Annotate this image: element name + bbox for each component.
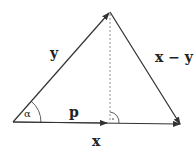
label-x-minus-y: x − y: [155, 49, 194, 65]
label-y: y: [49, 45, 59, 61]
label-alpha: α: [24, 108, 31, 119]
vector-p: [13, 122, 107, 123]
vector-x-minus-y: [110, 12, 180, 124]
projection-diagram: y x − y α p x: [0, 0, 194, 155]
label-p: p: [69, 104, 79, 120]
right-angle-dot: [112, 118, 114, 120]
angle-arc-alpha: [31, 101, 41, 123]
right-angle-arc: [110, 112, 119, 123]
label-x: x: [92, 133, 101, 149]
vector-y: [13, 13, 109, 122]
